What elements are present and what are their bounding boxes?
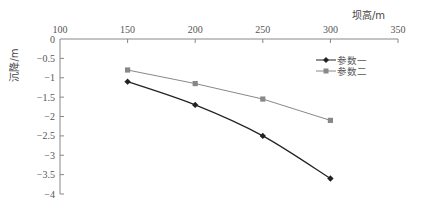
- x-tick-label: 300: [323, 24, 338, 35]
- diamond-marker: [327, 175, 333, 181]
- legend-label: 参数二: [337, 66, 367, 77]
- diamond-marker: [124, 78, 130, 84]
- legend-item-2: 参数二: [316, 66, 367, 77]
- x-tick-label: 150: [120, 24, 135, 35]
- y-tick-label: 0: [50, 34, 55, 45]
- y-tick-label: −2: [44, 111, 55, 122]
- y-tick-label: −0.5: [37, 53, 55, 64]
- diamond-marker: [323, 57, 329, 63]
- y-tick-label: −4: [44, 189, 55, 200]
- legend-label: 参数一: [337, 55, 367, 66]
- series-group: [124, 67, 333, 181]
- x-tick-label: 250: [255, 24, 270, 35]
- series-2: [125, 67, 333, 123]
- square-marker: [324, 69, 329, 74]
- y-tick-label: −1: [44, 72, 55, 83]
- diamond-marker: [260, 133, 266, 139]
- square-marker: [193, 81, 198, 86]
- x-axis-title: 坝高/m: [352, 9, 385, 21]
- series-line: [128, 70, 331, 120]
- x-axis-ticks: 100150200250300350: [53, 24, 406, 43]
- diamond-marker: [192, 102, 198, 108]
- y-tick-label: −3.5: [37, 169, 55, 180]
- legend-item-1: 参数一: [316, 55, 367, 66]
- square-marker: [125, 67, 130, 72]
- y-tick-label: −3: [44, 150, 55, 161]
- y-axis-title: 沉降/m: [8, 48, 20, 81]
- settlement-chart: 100150200250300350 0−0.5−1−1.5−2−2.5−3−3…: [0, 0, 422, 211]
- x-tick-label: 200: [188, 24, 203, 35]
- legend: 参数一参数二: [316, 55, 367, 77]
- series-line: [128, 82, 331, 179]
- square-marker: [260, 96, 265, 101]
- series-1: [124, 78, 333, 181]
- y-tick-label: −2.5: [37, 130, 55, 141]
- y-tick-label: −1.5: [37, 92, 55, 103]
- x-tick-label: 350: [391, 24, 406, 35]
- square-marker: [328, 118, 333, 123]
